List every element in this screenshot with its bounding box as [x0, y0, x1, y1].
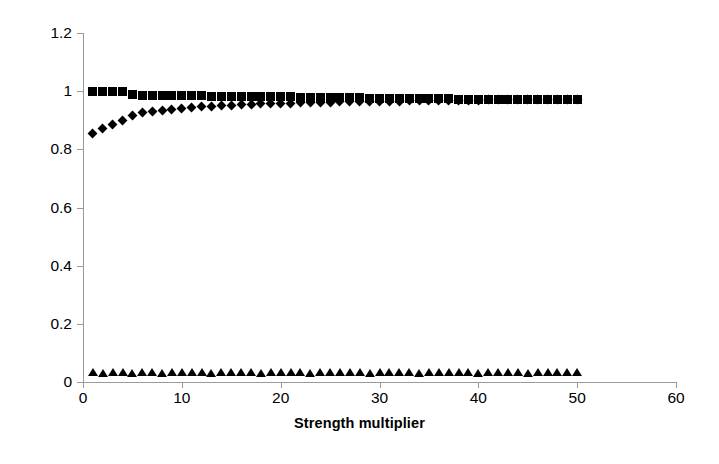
data-point-triangle — [187, 368, 197, 376]
data-point-triangle — [236, 368, 246, 376]
y-tick-label: 1.2 — [0, 25, 72, 40]
data-point-square — [158, 91, 167, 100]
x-tick-label: 60 — [656, 390, 696, 406]
data-point-triangle — [88, 368, 98, 376]
data-point-triangle — [167, 368, 177, 376]
plot-area — [83, 33, 676, 382]
data-point-diamond — [167, 104, 177, 114]
data-point-triangle — [473, 369, 483, 377]
data-point-square — [187, 91, 196, 100]
data-point-diamond — [88, 128, 98, 138]
data-point-triangle — [98, 369, 108, 377]
x-tick-label: 50 — [557, 390, 597, 406]
data-point-triangle — [533, 368, 543, 376]
data-point-triangle — [375, 368, 385, 376]
y-tick-label: 0.6 — [0, 200, 72, 215]
y-tick-label: 0.8 — [0, 141, 72, 156]
data-point-triangle — [523, 369, 533, 377]
data-point-square — [207, 92, 216, 101]
data-point-triangle — [365, 369, 375, 377]
x-axis-title: Strength multiplier — [0, 415, 719, 431]
y-tick-label: 0.2 — [0, 316, 72, 331]
data-point-triangle — [305, 369, 315, 377]
data-point-triangle — [483, 368, 493, 376]
data-point-triangle — [572, 368, 582, 376]
data-point-triangle — [147, 368, 157, 376]
data-point-diamond — [98, 123, 108, 133]
data-point-diamond — [127, 110, 137, 120]
data-point-diamond — [216, 101, 226, 111]
x-tick — [676, 382, 677, 388]
x-tick — [281, 382, 282, 388]
data-point-triangle — [216, 368, 226, 376]
x-tick — [182, 382, 183, 388]
data-point-triangle — [384, 368, 394, 376]
data-point-triangle — [295, 368, 305, 376]
data-point-triangle — [543, 368, 553, 376]
data-point-triangle — [404, 368, 414, 376]
y-tick-label: 0.4 — [0, 258, 72, 273]
data-point-triangle — [325, 368, 335, 376]
data-point-triangle — [345, 368, 355, 376]
data-point-diamond — [137, 108, 147, 118]
data-point-diamond — [226, 100, 236, 110]
x-tick-label: 0 — [63, 390, 103, 406]
x-tick-label: 10 — [162, 390, 202, 406]
data-point-diamond — [177, 103, 187, 113]
x-tick-label: 20 — [261, 390, 301, 406]
data-point-triangle — [552, 368, 562, 376]
data-point-diamond — [197, 102, 207, 112]
data-point-triangle — [493, 368, 503, 376]
data-point-triangle — [414, 369, 424, 377]
data-point-triangle — [463, 368, 473, 376]
data-point-triangle — [137, 368, 147, 376]
data-point-square — [128, 90, 137, 99]
data-point-square — [108, 87, 117, 96]
data-point-diamond — [157, 105, 167, 115]
data-point-square — [148, 91, 157, 100]
data-point-triangle — [335, 368, 345, 376]
data-point-triangle — [226, 368, 236, 376]
data-point-triangle — [157, 369, 167, 377]
data-point-diamond — [187, 103, 197, 113]
data-point-triangle — [513, 368, 523, 376]
data-point-triangle — [424, 368, 434, 376]
data-point-triangle — [276, 368, 286, 376]
data-point-triangle — [315, 368, 325, 376]
data-point-square — [177, 91, 186, 100]
data-point-triangle — [444, 368, 454, 376]
data-point-square — [98, 87, 107, 96]
data-point-diamond — [236, 100, 246, 110]
data-point-triangle — [355, 368, 365, 376]
data-point-triangle — [266, 368, 276, 376]
y-tick-label: 0 — [0, 374, 72, 389]
data-point-diamond — [118, 116, 128, 126]
data-point-triangle — [206, 369, 216, 377]
x-tick — [380, 382, 381, 388]
data-point-triangle — [503, 368, 513, 376]
data-point-triangle — [256, 369, 266, 377]
data-point-diamond — [147, 107, 157, 117]
chart-container: 00.20.40.60.811.2 0102030405060 Strength… — [0, 0, 719, 464]
data-point-triangle — [177, 368, 187, 376]
x-tick — [83, 382, 84, 388]
data-point-square — [88, 87, 97, 96]
data-point-triangle — [118, 368, 128, 376]
data-point-triangle — [108, 368, 118, 376]
data-point-triangle — [434, 368, 444, 376]
data-point-triangle — [562, 368, 572, 376]
data-point-square — [167, 91, 176, 100]
x-tick-label: 40 — [458, 390, 498, 406]
data-point-square — [217, 92, 226, 101]
data-point-triangle — [394, 368, 404, 376]
data-point-triangle — [246, 368, 256, 376]
data-point-square — [197, 91, 206, 100]
x-tick-label: 30 — [360, 390, 400, 406]
data-point-diamond — [108, 119, 118, 129]
data-point-triangle — [286, 368, 296, 376]
data-point-diamond — [207, 101, 217, 111]
x-tick — [577, 382, 578, 388]
data-point-triangle — [197, 368, 207, 376]
data-point-square — [138, 91, 147, 100]
y-tick-label: 1 — [0, 83, 72, 98]
